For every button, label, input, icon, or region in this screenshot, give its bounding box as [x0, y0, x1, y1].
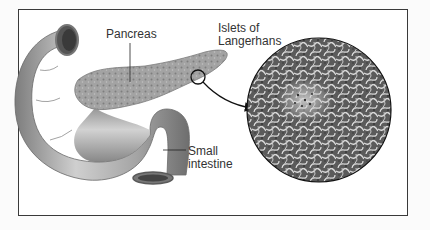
magnified-tissue-view	[240, 30, 400, 190]
magnify-arrow	[203, 82, 252, 108]
islets-label-line2: Langerhans	[218, 35, 281, 48]
small-intestine-label: Small intestine	[188, 145, 233, 171]
pancreas-label: Pancreas	[106, 28, 157, 41]
islets-of-langerhans-label: Islets of Langerhans	[218, 22, 281, 48]
small-intestine-label-line2: intestine	[188, 158, 233, 171]
anatomy-illustration	[0, 0, 430, 230]
